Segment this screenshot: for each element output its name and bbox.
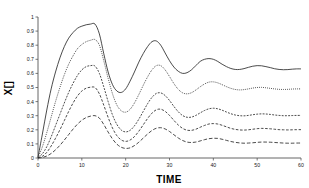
y-tick-label: 0.5 bbox=[27, 84, 34, 90]
y-tick-label: 0.8 bbox=[27, 42, 34, 48]
series-line-3 bbox=[38, 65, 301, 157]
x-tick-label: 20 bbox=[123, 162, 129, 168]
y-tick-label: 0.3 bbox=[27, 113, 34, 119]
y-tick-label: 1 bbox=[31, 14, 34, 20]
y-tick-label: 0 bbox=[31, 155, 34, 161]
chart-figure: 00.10.20.30.40.50.60.70.80.91 0102030405… bbox=[0, 0, 309, 188]
x-axis-tick-labels: 0102030405060 bbox=[37, 162, 304, 168]
series-line-5 bbox=[38, 116, 301, 158]
x-tick-label: 60 bbox=[298, 162, 304, 168]
series-line-2 bbox=[38, 39, 301, 157]
series-line-1 bbox=[38, 23, 301, 157]
y-tick-label: 0.6 bbox=[27, 70, 34, 76]
x-tick-label: 40 bbox=[210, 162, 216, 168]
y-axis-title: X[] bbox=[3, 81, 14, 96]
x-tick-label: 0 bbox=[37, 162, 40, 168]
y-tick-label: 0.4 bbox=[27, 99, 34, 105]
series-line-4 bbox=[38, 87, 301, 158]
y-tick-label: 0.2 bbox=[27, 127, 34, 133]
x-axis-title: TIME bbox=[156, 174, 182, 185]
y-axis-tick-labels: 00.10.20.30.40.50.60.70.80.91 bbox=[27, 14, 34, 161]
x-tick-label: 10 bbox=[79, 162, 85, 168]
y-tick-label: 0.7 bbox=[27, 56, 34, 62]
x-tick-label: 50 bbox=[254, 162, 260, 168]
y-tick-label: 0.9 bbox=[27, 28, 34, 34]
data-series-group bbox=[38, 23, 301, 158]
line-chart: 00.10.20.30.40.50.60.70.80.91 0102030405… bbox=[0, 0, 309, 188]
y-tick-label: 0.1 bbox=[27, 141, 34, 147]
x-tick-label: 30 bbox=[167, 162, 173, 168]
